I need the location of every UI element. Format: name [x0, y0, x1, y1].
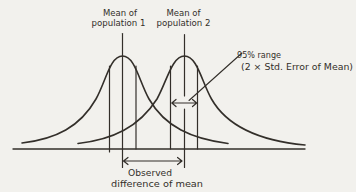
range-label-line2: (2 × Std. Error of Mean): [241, 62, 353, 72]
range-arrow: [172, 100, 197, 107]
observed-arrow: [124, 158, 183, 165]
range-label-line1: 95% range: [237, 50, 281, 60]
observed-label-line1: Observed: [128, 168, 172, 178]
observed-label-line2: difference of mean: [111, 179, 203, 189]
mean-population-2-label-line2: population 2: [157, 18, 211, 28]
diagram-svg: Mean of population 1 Mean of population …: [0, 0, 356, 192]
mean-population-1-label-line1: Mean of: [103, 8, 138, 18]
mean-population-1-label-line2: population 1: [92, 18, 146, 28]
distribution-diagram: Mean of population 1 Mean of population …: [0, 0, 356, 192]
mean-population-2-label-line1: Mean of: [167, 8, 202, 18]
